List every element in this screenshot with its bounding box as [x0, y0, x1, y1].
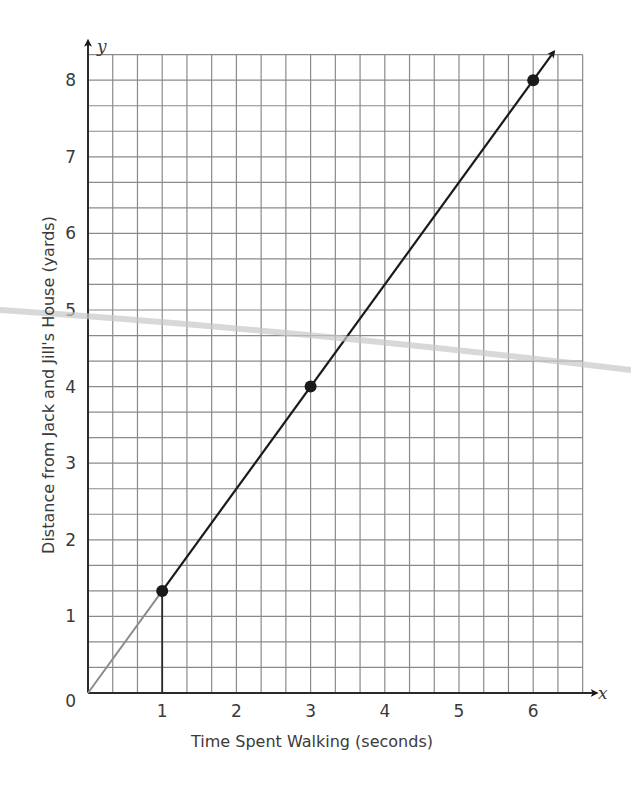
- y-tick-label: 8: [65, 70, 76, 90]
- x-axis-title: Time Spent Walking (seconds): [190, 732, 433, 751]
- y-axis-variable: y: [96, 36, 107, 56]
- data-line: [162, 52, 554, 591]
- y-axis-title: Distance from Jack and Jill's House (yar…: [39, 216, 58, 554]
- x-axis-variable: x: [598, 683, 608, 703]
- y-tick-label: 1: [65, 606, 76, 626]
- data-point: [305, 381, 317, 393]
- y-tick-label: 4: [65, 377, 76, 397]
- x-tick-label: 6: [528, 701, 539, 721]
- x-tick-label: 4: [379, 701, 390, 721]
- x-tick-label: 2: [231, 701, 242, 721]
- tick-labels: 123456123456780: [65, 70, 538, 721]
- y-tick-label: 6: [65, 223, 76, 243]
- line-chart: 123456123456780 Time Spent Walking (seco…: [0, 0, 631, 794]
- y-tick-label: 7: [65, 147, 76, 167]
- x-tick-label: 1: [157, 701, 168, 721]
- x-tick-label: 5: [454, 701, 465, 721]
- origin-label: 0: [65, 691, 76, 711]
- y-tick-label: 2: [65, 530, 76, 550]
- y-tick-label: 3: [65, 453, 76, 473]
- data-point: [527, 74, 539, 86]
- x-tick-label: 3: [305, 701, 316, 721]
- data-point: [156, 585, 168, 597]
